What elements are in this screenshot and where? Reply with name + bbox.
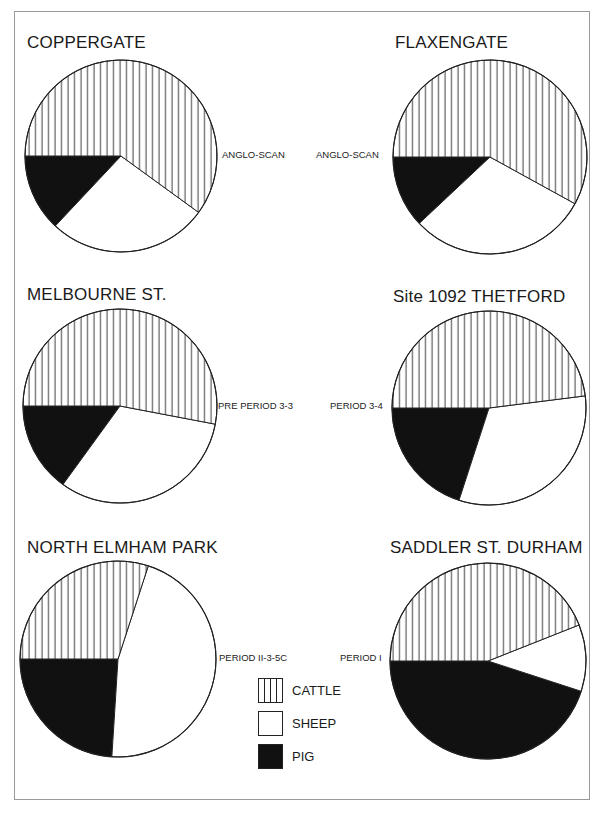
legend-label-cattle: CATTLE: [292, 684, 341, 698]
slice-cattle: [392, 311, 585, 408]
pie-flaxengate: [393, 60, 587, 254]
pig-black-swatch-icon: [258, 744, 283, 769]
cattle-hatch-swatch-icon: [258, 678, 283, 703]
pie-north-elmham-park: [20, 561, 216, 757]
sheep-white-swatch-icon: [258, 711, 283, 736]
pie-melbourne-st: [23, 309, 217, 503]
slice-pig: [20, 659, 118, 757]
legend-label-pig: PIG: [292, 750, 314, 764]
pie-thetford: [392, 311, 586, 505]
pie-coppergate: [25, 60, 217, 252]
pie-saddler-st-durham: [390, 563, 586, 759]
legend-label-sheep: SHEEP: [292, 717, 336, 731]
